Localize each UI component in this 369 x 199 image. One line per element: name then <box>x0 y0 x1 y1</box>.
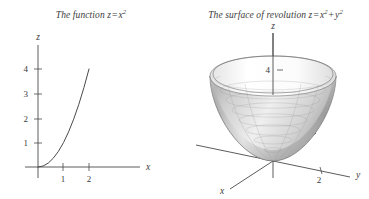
parabola-plot: 4 3 2 1 1 2 z x <box>0 0 182 199</box>
parabola-curve <box>38 69 89 167</box>
paraboloid-surface-plot: 4 2 z y x <box>182 0 369 199</box>
x-tick-label-2: 2 <box>87 174 92 184</box>
figure-root: The function z=x2 4 3 2 1 1 2 z x <box>0 0 369 199</box>
z-axis-label: z <box>35 32 40 42</box>
surface-z-tick-label-4: 4 <box>266 65 271 75</box>
surface-y-axis-label: y <box>355 170 361 180</box>
surface-x-axis-line <box>230 161 273 189</box>
z-tick-label-1: 1 <box>24 138 29 148</box>
surface-y-axis-line <box>273 161 350 177</box>
surface-z-axis-label: z <box>270 21 275 31</box>
right-figure-panel: The surface of revolution z=x2+y2 <box>182 0 369 199</box>
z-tick-label-3: 3 <box>24 89 29 99</box>
z-tick-label-2: 2 <box>24 114 29 124</box>
surface-x-axis-label: x <box>219 186 225 196</box>
x-axis-label: x <box>145 162 151 172</box>
surface-y-tick-label-2: 2 <box>317 175 322 185</box>
left-figure-panel: The function z=x2 4 3 2 1 1 2 z x <box>0 0 182 199</box>
x-tick-label-1: 1 <box>61 174 66 184</box>
z-tick-label-4: 4 <box>24 64 29 74</box>
